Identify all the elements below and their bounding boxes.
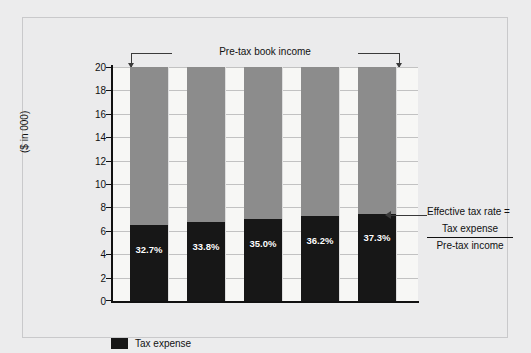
y-tick-6: 6: [80, 225, 106, 236]
chart-legend: Tax expense: [111, 338, 191, 349]
bracket-line-right: [358, 53, 399, 54]
annotation-leader-line: [391, 215, 427, 216]
x-axis-line: [111, 301, 419, 303]
plot-area: 32.7% 33.8% 35.0% 36.2% 37.3% 2008 2009 …: [112, 67, 418, 301]
y-axis-line: [111, 65, 113, 303]
y-axis-tick-labels: 20 18 16 14 12 10 8 6 4 2 0: [80, 67, 106, 301]
annotation-denominator: Pre-tax income: [427, 237, 513, 253]
annotation-fraction: Tax expense Pre-tax income: [427, 222, 513, 253]
bar-tax-expense-2012: [358, 214, 396, 301]
bar-tax-expense-2008: [130, 225, 168, 302]
bar-label-2012: 37.3%: [358, 232, 396, 243]
y-tick-8: 8: [80, 202, 106, 213]
bar-label-2011: 36.2%: [301, 235, 339, 246]
y-tick-18: 18: [80, 85, 106, 96]
annotation-numerator: Tax expense: [427, 222, 513, 237]
bar-tax-expense-2009: [187, 222, 225, 301]
y-axis-title: ($ in 000): [19, 111, 30, 153]
bar-label-2008: 32.7%: [130, 244, 168, 255]
pre-tax-book-income-bracket: Pre-tax book income: [112, 46, 418, 68]
annotation-heading: Effective tax rate =: [427, 205, 531, 219]
bracket-label: Pre-tax book income: [172, 46, 358, 57]
y-tick-12: 12: [80, 155, 106, 166]
y-tick-2: 2: [80, 272, 106, 283]
y-tick-4: 4: [80, 249, 106, 260]
bar-tax-expense-2011: [301, 216, 339, 301]
effective-tax-rate-annotation: Effective tax rate = Tax expense Pre-tax…: [427, 205, 531, 253]
legend-label-tax-expense: Tax expense: [135, 338, 191, 349]
bar-tax-expense-2010: [244, 219, 282, 301]
y-tick-16: 16: [80, 108, 106, 119]
y-tick-14: 14: [80, 132, 106, 143]
chart-frame: Pre-tax book income 20 18 16 14 12 10 8 …: [22, 17, 508, 338]
legend-swatch-tax-expense: [111, 338, 128, 349]
bar-label-2010: 35.0%: [244, 238, 282, 249]
bracket-line-left: [131, 53, 172, 54]
bar-label-2009: 33.8%: [187, 241, 225, 252]
y-tick-10: 10: [80, 179, 106, 190]
y-tick-20: 20: [80, 62, 106, 73]
y-tick-0: 0: [80, 296, 106, 307]
